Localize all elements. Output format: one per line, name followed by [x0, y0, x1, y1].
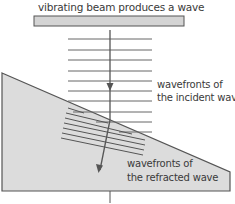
refracted-label-line1: wavefronts of: [127, 158, 193, 170]
incident-label-line1: wavefronts of: [157, 79, 223, 91]
vibrating-beam: [34, 16, 184, 26]
incident-label-line2: the incident wave: [157, 92, 235, 104]
refracted-label-line2: the refracted wave: [127, 172, 218, 184]
incident-arrowhead-icon: [107, 83, 114, 91]
